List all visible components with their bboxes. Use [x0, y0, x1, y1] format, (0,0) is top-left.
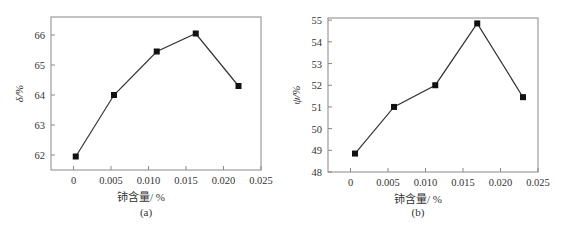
chart-panel-b: 484950515253545500.0050.0100.0150.0200.0… — [283, 0, 566, 228]
data-point-marker — [111, 92, 117, 98]
x-tick-label: 0.020 — [212, 175, 236, 186]
y-tick-label: 49 — [312, 145, 323, 156]
y-tick-label: 54 — [312, 37, 323, 48]
panel-label-b: (b) — [398, 206, 438, 218]
series-line — [355, 23, 523, 153]
chart-b-svg: 484950515253545500.0050.0100.0150.0200.0… — [283, 0, 566, 228]
chart-a-svg: 626364656600.0050.0100.0150.0200.025铈含量/… — [0, 0, 283, 228]
x-tick-label: 0.010 — [137, 175, 161, 186]
data-point-marker — [236, 83, 242, 89]
y-axis-title: ψ/% — [290, 85, 302, 104]
chart-panel-a: 626364656600.0050.0100.0150.0200.025铈含量/… — [0, 0, 283, 228]
data-point-marker — [154, 49, 160, 55]
data-point-marker — [474, 20, 480, 26]
x-tick-label: 0.015 — [174, 175, 198, 186]
x-axis-title: 铈含量/ % — [117, 190, 165, 203]
data-point-marker — [432, 82, 438, 88]
data-point-marker — [193, 31, 199, 37]
x-tick-label: 0 — [71, 175, 76, 186]
y-tick-label: 52 — [312, 80, 323, 91]
y-tick-label: 50 — [312, 124, 323, 135]
y-tick-label: 48 — [312, 167, 323, 178]
x-tick-label: 0.025 — [526, 177, 550, 188]
data-point-marker — [520, 94, 526, 100]
x-tick-label: 0.025 — [249, 175, 273, 186]
y-tick-label: 53 — [312, 59, 323, 70]
panel-label-a: (a) — [126, 206, 166, 218]
y-tick-label: 62 — [35, 150, 46, 161]
y-tick-label: 65 — [35, 60, 46, 71]
x-tick-label: 0.020 — [489, 177, 513, 188]
x-tick-label: 0.005 — [99, 175, 123, 186]
data-point-marker — [391, 104, 397, 110]
data-point-marker — [352, 151, 358, 157]
x-tick-label: 0.010 — [414, 177, 438, 188]
plot-frame — [51, 17, 261, 170]
y-tick-label: 51 — [312, 102, 323, 113]
x-tick-label: 0.005 — [376, 177, 400, 188]
y-axis-title: δ/% — [13, 85, 25, 102]
y-tick-label: 63 — [35, 120, 46, 131]
y-tick-label: 66 — [35, 30, 46, 41]
y-tick-label: 64 — [35, 90, 46, 101]
y-tick-label: 55 — [312, 15, 323, 26]
x-tick-label: 0.015 — [451, 177, 475, 188]
x-tick-label: 0 — [348, 177, 353, 188]
x-axis-title: 铈含量/ % — [394, 192, 442, 205]
data-point-marker — [73, 154, 79, 160]
